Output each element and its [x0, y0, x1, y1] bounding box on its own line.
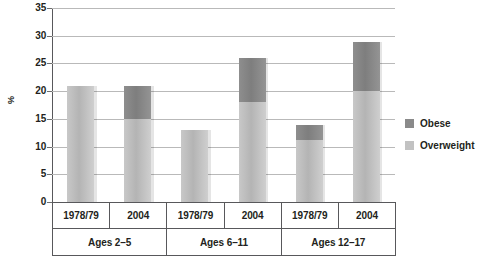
period-label: 2004 — [225, 203, 282, 229]
bar-segment-overweight[interactable] — [296, 140, 323, 202]
period-label: 1978/79 — [167, 203, 224, 229]
age-group-label: Ages 12–17 — [282, 229, 396, 256]
y-axis-tick-label: 30 — [18, 30, 46, 42]
period-label: 2004 — [339, 203, 396, 229]
chart-legend: ObeseOverweight — [405, 118, 474, 162]
y-axis-tick-label: 10 — [18, 141, 46, 153]
bar-stack[interactable] — [67, 86, 94, 202]
age-group-label: Ages 2–5 — [53, 229, 167, 256]
gridline — [52, 119, 395, 120]
bar-segment-obese[interactable] — [296, 125, 323, 140]
age-group-label: Ages 6–11 — [167, 229, 281, 256]
period-label: 1978/79 — [53, 203, 110, 229]
y-axis-tick-label: 0 — [18, 196, 46, 208]
bar-segment-overweight[interactable] — [67, 86, 94, 202]
chart-container: % 35302520151050 1978/7920041978/7920041… — [0, 0, 494, 268]
figure-caption — [6, 259, 336, 268]
y-axis-tick-label: 15 — [18, 113, 46, 125]
gridline — [52, 8, 395, 9]
y-axis-tick-label: 5 — [18, 168, 46, 180]
legend-label: Overweight — [420, 140, 474, 151]
bar-segment-obese[interactable] — [124, 86, 151, 119]
legend-swatch-icon — [405, 119, 414, 128]
bar-segment-overweight[interactable] — [124, 119, 151, 202]
bar-stack[interactable] — [124, 86, 151, 202]
bar-segment-overweight[interactable] — [239, 102, 266, 202]
period-label: 1978/79 — [282, 203, 339, 229]
bar-stack[interactable] — [239, 58, 266, 202]
bar-segment-overweight[interactable] — [353, 91, 380, 202]
y-axis-tick-label: 35 — [18, 2, 46, 14]
legend-item[interactable]: Overweight — [405, 140, 474, 151]
period-label: 2004 — [110, 203, 167, 229]
age-group-label-row: Ages 2–5Ages 6–11Ages 12–17 — [52, 229, 396, 256]
bar-stack[interactable] — [181, 130, 208, 202]
bar-stack[interactable] — [353, 42, 380, 202]
gridline — [52, 174, 395, 175]
y-axis-tick-label: 25 — [18, 57, 46, 69]
bar-segment-obese[interactable] — [353, 42, 380, 91]
gridline — [52, 91, 395, 92]
gridline — [52, 63, 395, 64]
legend-swatch-icon — [405, 141, 414, 150]
gridline — [52, 36, 395, 37]
gridline — [52, 147, 395, 148]
bar-segment-obese[interactable] — [239, 58, 266, 102]
bar-segment-overweight[interactable] — [181, 130, 208, 202]
legend-item[interactable]: Obese — [405, 118, 474, 129]
bar-stack[interactable] — [296, 125, 323, 202]
y-axis-tick-label: 20 — [18, 85, 46, 97]
plot-area — [52, 8, 395, 202]
period-label-row: 1978/7920041978/7920041978/792004 — [52, 203, 396, 229]
legend-label: Obese — [420, 118, 451, 129]
x-axis-labels: 1978/7920041978/7920041978/792004 Ages 2… — [52, 203, 396, 256]
